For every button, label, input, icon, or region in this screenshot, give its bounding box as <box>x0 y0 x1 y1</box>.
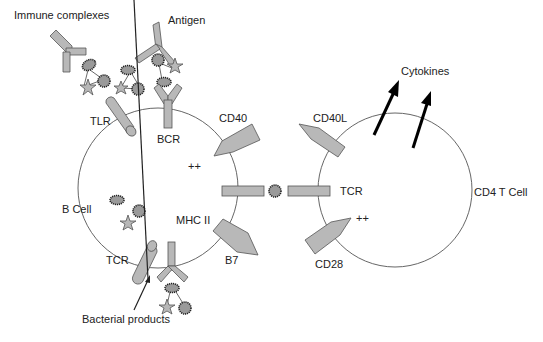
b-cell-membrane <box>78 108 238 268</box>
b7-ligand <box>213 219 258 255</box>
label-plus-t-cell: ++ <box>356 212 369 224</box>
label-tcr-t-cell: TCR <box>340 185 363 197</box>
label-tcr-b-cell: TCR <box>106 254 129 266</box>
cytokine-arrow-1 <box>374 80 399 135</box>
label-b7: B7 <box>225 254 238 266</box>
cytokine-arrow-2 <box>413 91 431 148</box>
label-antigen: Antigen <box>168 14 205 26</box>
cd40l-ligand <box>299 124 345 157</box>
cd40-receptor <box>214 124 260 156</box>
label-tlr: TLR <box>90 115 111 127</box>
label-cd28: CD28 <box>315 258 343 270</box>
b-cell-tcr-like-receptor <box>132 239 158 284</box>
bacterial-antigen-cluster <box>159 284 191 315</box>
label-immune-complexes: Immune complexes <box>14 9 110 21</box>
t-cell-tcr-molecule <box>288 186 330 196</box>
label-cd40: CD40 <box>219 112 247 124</box>
internalized-antigens <box>110 196 145 231</box>
bcr-receptor <box>154 84 182 128</box>
label-mhc2: MHC II <box>176 214 210 226</box>
label-cd4-t-cell: CD4 T Cell <box>474 186 527 198</box>
label-bacterial-products: Bacterial products <box>82 313 171 325</box>
immune-complex-antibody-1 <box>50 30 86 72</box>
label-cd40l: CD40L <box>313 112 347 124</box>
label-b-cell: B Cell <box>62 203 91 215</box>
immune-complex-antigen-cluster-2 <box>114 66 144 96</box>
surface-antibody-bottom <box>157 242 188 282</box>
label-plus-b-cell: ++ <box>188 160 201 172</box>
label-bcr: BCR <box>157 133 180 145</box>
cd28-receptor <box>305 218 351 254</box>
b-cell-t-cell-interaction-diagram: Immune complexes Antigen TLR BCR CD40 ++… <box>0 0 543 342</box>
label-cytokines: Cytokines <box>401 65 450 77</box>
mhc2-molecule <box>222 186 264 196</box>
diagram-canvas: Immune complexes Antigen TLR BCR CD40 ++… <box>0 0 543 342</box>
immune-complex-antigen-cluster-1 <box>80 57 110 95</box>
presented-peptide <box>269 185 281 197</box>
